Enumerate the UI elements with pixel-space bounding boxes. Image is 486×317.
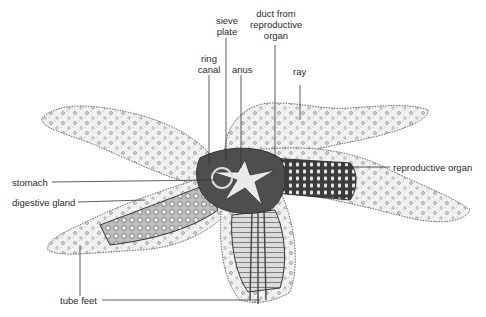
label-ring-canal-line2: canal (196, 64, 222, 75)
label-ring-canal-line1: ring (196, 53, 222, 64)
label-sieve-plate-line2: plate (213, 26, 241, 37)
label-ring-canal: ring canal (196, 53, 222, 75)
label-duct-line1: duct from (250, 8, 302, 19)
label-duct-line2: reproductive (250, 19, 302, 30)
starfish-diagram: sieve plate duct from reproductive organ… (0, 0, 486, 317)
label-digestive-gland: digestive gland (12, 197, 75, 208)
label-tube-feet: tube feet (60, 295, 97, 306)
arm-upper-left (42, 106, 215, 185)
label-reproductive-organ: reproductive organ (393, 162, 472, 173)
label-sieve-plate-line1: sieve (213, 15, 241, 26)
label-ray: ray (293, 66, 306, 77)
starfish-illustration (0, 0, 486, 317)
label-duct-line3: organ (250, 30, 302, 41)
label-sieve-plate: sieve plate (213, 15, 241, 37)
label-stomach: stomach (12, 177, 48, 188)
arm-lower-left (48, 175, 225, 254)
label-duct-from-reproductive-organ: duct from reproductive organ (250, 8, 302, 41)
label-anus: anus (232, 64, 253, 75)
